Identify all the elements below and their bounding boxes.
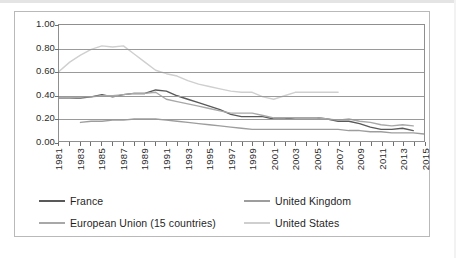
- x-axis-tick-label: 2007: [334, 148, 345, 170]
- x-axis-tick-label: 1985: [96, 148, 107, 170]
- x-axis-tick-mark: [393, 142, 394, 146]
- x-axis-tick-mark: [382, 142, 383, 146]
- x-axis-tick-mark: [177, 142, 178, 146]
- x-axis-tick-mark: [339, 142, 340, 146]
- y-axis-tick-label: 1.00: [36, 19, 55, 29]
- x-axis-tick-mark: [166, 142, 167, 146]
- y-axis-tick-mark: [55, 25, 59, 26]
- legend-line-swatch: [244, 222, 270, 224]
- x-axis-tick-mark: [242, 142, 243, 146]
- x-axis-tick-label: 1987: [118, 148, 129, 170]
- x-axis-tick-mark: [58, 142, 59, 146]
- x-axis-tick-mark: [403, 142, 404, 146]
- legend-item[interactable]: European Union (15 countries): [39, 216, 216, 230]
- x-axis-tick-label: 1983: [75, 148, 86, 170]
- y-axis-tick-label: 0.20: [36, 113, 55, 123]
- scan-edge-top: [0, 0, 456, 3]
- x-axis-tick-label: 2015: [420, 148, 431, 170]
- x-axis-tick-mark: [425, 142, 426, 146]
- x-axis-tick-mark: [112, 142, 113, 146]
- x-axis-tick-mark: [360, 142, 361, 146]
- data-series-line: [80, 119, 424, 134]
- legend-line-swatch: [244, 200, 270, 202]
- x-axis-tick-mark: [295, 142, 296, 146]
- legend-line-swatch: [39, 200, 65, 202]
- y-axis-tick-label: 0.60: [36, 66, 55, 76]
- x-axis-tick-mark: [220, 142, 221, 146]
- chart-frame: 1.000.800.600.400.200.00 198119831985198…: [14, 11, 430, 237]
- legend-label: European Union (15 countries): [70, 217, 216, 229]
- gridline: [59, 96, 424, 97]
- x-axis-tick-mark: [306, 142, 307, 146]
- x-axis-tick-mark: [328, 142, 329, 146]
- x-axis-tick-label: 2011: [377, 148, 388, 170]
- x-axis-tick-mark: [198, 142, 199, 146]
- x-axis-tick-label: 2009: [355, 148, 366, 170]
- x-axis-tick-mark: [134, 142, 135, 146]
- x-axis-tick-mark: [285, 142, 286, 146]
- x-axis-tick-mark: [274, 142, 275, 146]
- x-axis-tick-label: 1991: [161, 148, 172, 170]
- y-axis-tick-label: 0.40: [36, 90, 55, 100]
- x-axis-tick-mark: [80, 142, 81, 146]
- y-axis-labels: 1.000.800.600.400.200.00: [17, 24, 55, 142]
- gridline: [59, 72, 424, 73]
- legend-line-swatch: [39, 222, 65, 224]
- x-axis-tick-mark: [155, 142, 156, 146]
- x-axis-tick-mark: [69, 142, 70, 146]
- x-axis-tick-mark: [263, 142, 264, 146]
- legend-item[interactable]: United Kingdom: [244, 194, 351, 208]
- x-axis-tick-label: 1995: [204, 148, 215, 170]
- gridline: [59, 119, 424, 120]
- x-axis-tick-label: 1989: [139, 148, 150, 170]
- x-axis-tick-mark: [123, 142, 124, 146]
- x-axis-tick-mark: [231, 142, 232, 146]
- series-canvas: [59, 25, 424, 141]
- x-axis-tick-mark: [414, 142, 415, 146]
- chart-legend: FranceUnited KingdomEuropean Union (15 c…: [39, 194, 419, 236]
- x-axis-tick-mark: [209, 142, 210, 146]
- x-axis-tick-label: 1997: [226, 148, 237, 170]
- legend-item[interactable]: United States: [244, 216, 339, 230]
- legend-label: United States: [275, 217, 339, 229]
- x-axis-tick-mark: [101, 142, 102, 146]
- x-axis-tick-mark: [188, 142, 189, 146]
- plot-wrapper: 1.000.800.600.400.200.00: [15, 12, 429, 162]
- x-axis-tick-mark: [252, 142, 253, 146]
- plot-area: [58, 24, 425, 142]
- legend-label: United Kingdom: [275, 195, 351, 207]
- x-axis-tick-label: 2003: [290, 148, 301, 170]
- x-axis-tick-label: 2001: [269, 148, 280, 170]
- legend-label: France: [70, 195, 103, 207]
- x-axis-tick-label: 1981: [53, 148, 64, 170]
- x-axis-tick-mark: [144, 142, 145, 146]
- y-axis-tick-label: 0.00: [36, 137, 55, 147]
- x-axis: 1981198319851987198919911993199519971999…: [58, 142, 425, 194]
- x-axis-tick-mark: [371, 142, 372, 146]
- x-axis-tick-mark: [349, 142, 350, 146]
- x-axis-tick-label: 1999: [247, 148, 258, 170]
- x-axis-tick-mark: [317, 142, 318, 146]
- legend-item[interactable]: France: [39, 194, 103, 208]
- y-axis-tick-label: 0.80: [36, 43, 55, 53]
- x-axis-tick-mark: [90, 142, 91, 146]
- chart-screenshot: 1.000.800.600.400.200.00 198119831985198…: [0, 0, 456, 258]
- gridline: [59, 49, 424, 50]
- x-axis-tick-label: 2013: [398, 148, 409, 170]
- x-axis-tick-label: 2005: [312, 148, 323, 170]
- x-axis-tick-label: 1993: [183, 148, 194, 170]
